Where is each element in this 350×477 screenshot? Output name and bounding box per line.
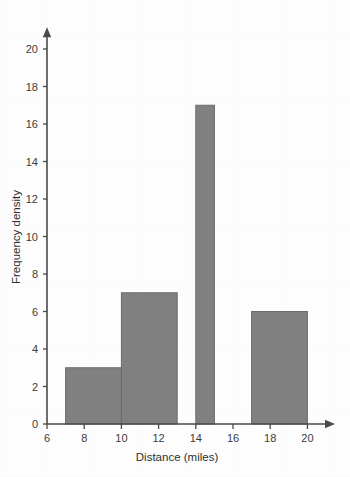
x-tick-label: 10 bbox=[115, 432, 127, 444]
y-tick-label: 10 bbox=[26, 231, 38, 243]
y-tick-label: 14 bbox=[26, 156, 38, 168]
x-tick-label: 20 bbox=[301, 432, 313, 444]
x-tick-label: 12 bbox=[152, 432, 164, 444]
y-tick-label: 20 bbox=[26, 43, 38, 55]
x-tick-label: 18 bbox=[264, 432, 276, 444]
histogram-bar bbox=[252, 312, 308, 425]
y-axis-ticks: 02468101214161820 bbox=[26, 43, 47, 430]
y-tick-label: 12 bbox=[26, 193, 38, 205]
histogram-bar bbox=[196, 105, 215, 424]
x-tick-label: 16 bbox=[227, 432, 239, 444]
y-axis-arrow-icon bbox=[43, 27, 51, 37]
y-tick-label: 0 bbox=[32, 418, 38, 430]
y-tick-label: 18 bbox=[26, 81, 38, 93]
histogram-chart: 02468101214161820 68101214161820 Distanc… bbox=[0, 0, 350, 477]
histogram-svg: 02468101214161820 68101214161820 Distanc… bbox=[0, 0, 350, 477]
y-tick-label: 2 bbox=[32, 381, 38, 393]
x-axis-ticks: 68101214161820 bbox=[44, 424, 314, 444]
x-axis-arrow-icon bbox=[325, 420, 335, 428]
x-tick-label: 8 bbox=[81, 432, 87, 444]
x-tick-label: 6 bbox=[44, 432, 50, 444]
histogram-bar bbox=[66, 368, 122, 424]
y-tick-label: 16 bbox=[26, 118, 38, 130]
y-tick-label: 4 bbox=[32, 343, 38, 355]
y-tick-label: 8 bbox=[32, 268, 38, 280]
x-axis-title: Distance (miles) bbox=[136, 451, 219, 463]
y-axis-title: Frequency density bbox=[10, 190, 22, 284]
histogram-bar bbox=[121, 293, 177, 424]
y-tick-label: 6 bbox=[32, 306, 38, 318]
bars-group bbox=[66, 105, 308, 424]
x-tick-label: 14 bbox=[190, 432, 202, 444]
